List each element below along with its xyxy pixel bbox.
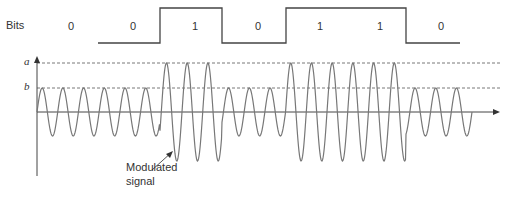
bits-label: Bits	[6, 19, 24, 31]
bit-label: 1	[317, 20, 323, 32]
bit-label: 0	[68, 20, 74, 32]
bit-label: 0	[438, 20, 444, 32]
level-a-label: a	[24, 55, 30, 67]
annotation-line-1: Modulated	[126, 160, 177, 174]
modulated-signal-annotation: Modulated signal	[126, 160, 177, 188]
level-b-label: b	[24, 80, 30, 92]
y-axis-arrow-icon	[34, 56, 40, 63]
annotation-line-2: signal	[126, 174, 177, 188]
bit-label: 1	[192, 20, 198, 32]
bit-stream-waveform	[98, 8, 460, 43]
bit-label: 0	[255, 20, 261, 32]
bit-label: 1	[377, 20, 383, 32]
bit-label: 0	[130, 20, 136, 32]
x-axis-arrow-icon	[493, 109, 500, 115]
